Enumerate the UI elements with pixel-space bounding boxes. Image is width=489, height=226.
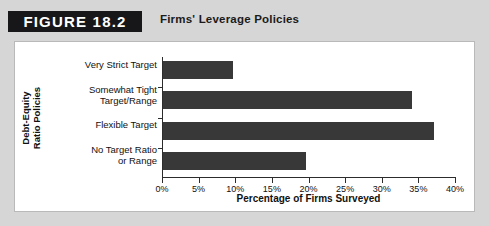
figure-container: FIGURE 18.2 Firms' Leverage Policies Deb… bbox=[0, 0, 489, 226]
x-axis-tick bbox=[455, 178, 456, 183]
bar bbox=[163, 122, 434, 140]
category-label-line: or Range bbox=[7, 156, 157, 167]
figure-header: FIGURE 18.2 Firms' Leverage Policies bbox=[0, 0, 489, 40]
x-axis-tick bbox=[345, 178, 346, 183]
x-axis-title: Percentage of Firms Surveyed bbox=[162, 193, 455, 204]
x-axis-tick bbox=[382, 178, 383, 183]
bar bbox=[163, 91, 412, 109]
figure-title: Firms' Leverage Policies bbox=[160, 13, 299, 25]
bar bbox=[163, 61, 233, 79]
y-axis-tick bbox=[158, 148, 162, 149]
category-label-no-target-ratio: No Target Ratio or Range bbox=[7, 145, 157, 166]
x-axis-tick bbox=[199, 178, 200, 183]
category-labels: Very Strict Target Somewhat Tight Target… bbox=[2, 57, 157, 178]
category-label-line: Somewhat Tight bbox=[7, 85, 157, 96]
category-label-line: Very Strict Target bbox=[7, 60, 157, 71]
plot-area: 0%5%10%15%20%25%30%35%40% bbox=[162, 57, 455, 178]
bar bbox=[163, 152, 306, 170]
x-axis-tick bbox=[272, 178, 273, 183]
category-label-flexible-target: Flexible Target bbox=[7, 120, 157, 131]
category-label-somewhat-tight: Somewhat Tight Target/Range bbox=[7, 85, 157, 106]
category-label-line: Flexible Target bbox=[7, 120, 157, 131]
y-axis-tick bbox=[158, 118, 162, 119]
category-label-line: Target/Range bbox=[7, 96, 157, 107]
x-axis-tick bbox=[162, 178, 163, 183]
x-axis-tick bbox=[235, 178, 236, 183]
x-axis-tick bbox=[418, 178, 419, 183]
category-label-very-strict-target: Very Strict Target bbox=[7, 60, 157, 71]
figure-number-badge: FIGURE 18.2 bbox=[8, 11, 142, 32]
x-axis-tick bbox=[309, 178, 310, 183]
category-label-line: No Target Ratio bbox=[7, 145, 157, 156]
y-axis-tick bbox=[158, 87, 162, 88]
